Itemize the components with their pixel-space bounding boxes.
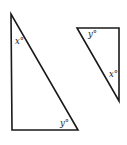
large-triangle-label-y: y° xyxy=(59,118,69,128)
diagram-canvas: x° y° y° x° xyxy=(0,0,127,145)
large-triangle-label-x: x° xyxy=(15,36,24,46)
small-triangle-label-y: y° xyxy=(87,29,97,39)
large-triangle-outline xyxy=(11,14,78,130)
small-triangle-outline xyxy=(77,28,119,101)
small-triangle-label-x: x° xyxy=(109,69,118,79)
small-triangle: y° x° xyxy=(77,28,119,101)
large-triangle: x° y° xyxy=(11,14,78,130)
